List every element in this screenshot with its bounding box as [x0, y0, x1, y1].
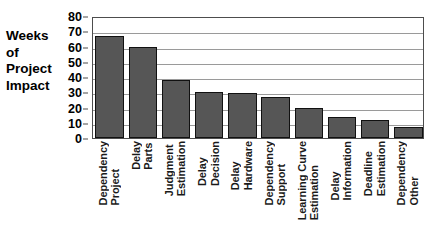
x-category-word: Estimation	[308, 141, 321, 220]
x-category-label: ProjectDependency	[92, 141, 125, 239]
x-category-label: DecisionDelay	[192, 141, 225, 239]
y-tick-label: 70	[68, 26, 82, 39]
x-category-word: Estimation	[374, 141, 387, 196]
y-tick-mark	[83, 93, 88, 94]
y-tick-mark	[83, 139, 88, 140]
x-category-label: InformationDelay	[324, 141, 357, 239]
x-category-word: Parts	[142, 141, 155, 170]
bar	[261, 97, 289, 138]
y-tick-mark	[83, 47, 88, 48]
x-category-word: Delay	[229, 141, 242, 190]
x-category-word: Information	[341, 141, 354, 200]
bar	[394, 127, 422, 138]
bar	[361, 120, 389, 138]
x-category-label: EstimationLearning Curve	[291, 141, 324, 239]
x-axis-category-labels: ProjectDependencyPartsDelayEstimationJud…	[92, 141, 424, 239]
y-tick-mark	[83, 62, 88, 63]
cropped-title-artifact	[0, 0, 436, 7]
x-category-word: Other	[407, 141, 420, 205]
bar-series	[93, 18, 423, 138]
x-category-word: Dependency	[96, 141, 109, 205]
y-tick-mark	[83, 78, 88, 79]
plot-area	[92, 17, 424, 139]
y-tick-mark	[83, 32, 88, 33]
x-category-word: Delay	[196, 141, 209, 186]
bar	[195, 92, 223, 139]
x-category-label: SupportDependency	[258, 141, 291, 239]
y-tick-mark	[83, 123, 88, 124]
x-category-label: EstimationJudgment	[158, 141, 191, 239]
x-category-word: Decision	[208, 141, 221, 186]
y-tick-label: 30	[68, 87, 82, 100]
x-category-word: Support	[275, 141, 288, 205]
x-category-word: Judgment	[162, 141, 175, 196]
x-category-label: PartsDelay	[125, 141, 158, 239]
bar	[295, 108, 323, 139]
y-axis-tick-labels: 01020304050607080	[56, 17, 88, 139]
x-category-label: EstimationDeadline	[358, 141, 391, 239]
x-category-word: Dependency	[395, 141, 408, 205]
x-category-word: Dependency	[262, 141, 275, 205]
x-category-label: OtherDependency	[391, 141, 424, 239]
x-category-label: HardwareDelay	[225, 141, 258, 239]
y-tick-label: 0	[75, 133, 82, 146]
x-category-word: Project	[109, 141, 122, 205]
x-category-word: Estimation	[175, 141, 188, 196]
x-category-word: Delay	[129, 141, 142, 170]
y-tick-mark	[83, 108, 88, 109]
bar	[95, 36, 123, 138]
x-category-word: Learning Curve	[295, 141, 308, 220]
x-category-word: Delay	[328, 141, 341, 200]
x-category-word: Deadline	[362, 141, 375, 196]
x-category-word: Hardware	[241, 141, 254, 190]
y-tick-label: 20	[68, 102, 82, 115]
y-tick-label: 50	[68, 57, 82, 70]
y-tick-label: 60	[68, 41, 82, 54]
y-tick-label: 10	[68, 118, 82, 131]
bar	[162, 80, 190, 138]
bar-chart-figure: WeeksofProjectImpact 01020304050607080 P…	[0, 0, 436, 239]
y-tick-label: 80	[68, 11, 82, 24]
bar	[228, 93, 256, 138]
y-tick-mark	[83, 17, 88, 18]
y-tick-label: 40	[68, 72, 82, 85]
bar	[328, 117, 356, 138]
bar	[129, 47, 157, 138]
